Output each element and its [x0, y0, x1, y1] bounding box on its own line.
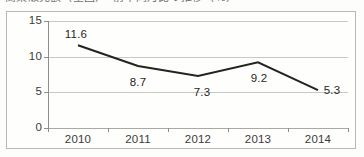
- chart-figure: 商業販売額（全国） 前年同月比の推移（％） 051015 20102011201…: [0, 0, 364, 157]
- x-tick-mark: [348, 128, 349, 132]
- data-series-line: [0, 0, 364, 157]
- x-tick-mark: [288, 128, 289, 132]
- x-tick-mark: [48, 128, 49, 132]
- x-tick-mark: [168, 128, 169, 132]
- y-tick-mark-5: [44, 92, 49, 93]
- data-point-label: 9.2: [239, 72, 279, 84]
- data-point-label: 5.3: [312, 84, 352, 96]
- data-point-label: 8.7: [118, 76, 158, 88]
- x-tick-mark: [108, 128, 109, 132]
- x-tick-mark: [228, 128, 229, 132]
- y-tick-mark-15: [44, 21, 49, 22]
- data-point-label: 11.6: [56, 28, 96, 40]
- data-point-label: 7.3: [182, 86, 222, 98]
- y-tick-mark-10: [44, 57, 49, 58]
